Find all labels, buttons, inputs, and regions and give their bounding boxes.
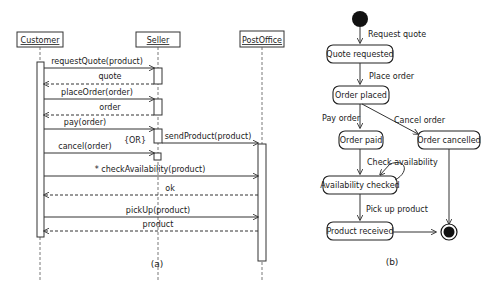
- svg-text:Order placed: Order placed: [335, 91, 387, 100]
- message-label: requestQuote(product): [51, 57, 143, 66]
- diagram-canvas: Customer Seller PostOffice requestQuote(…: [0, 0, 496, 285]
- state-order-placed: Order placed: [333, 86, 389, 104]
- message-label: pickUp(product): [126, 206, 190, 215]
- transition-label: Check availability: [367, 158, 438, 167]
- lifeline-label: Customer: [21, 36, 61, 45]
- activation-seller-2: [154, 99, 162, 115]
- caption-a: (a): [151, 259, 164, 269]
- svg-text:Quote requested: Quote requested: [326, 50, 393, 59]
- message-label: product: [143, 220, 174, 229]
- message-label: pay(order): [64, 118, 106, 127]
- sequence-diagram: Customer Seller PostOffice requestQuote(…: [17, 31, 284, 280]
- state-order-cancelled: Order cancelled: [417, 131, 480, 149]
- message-label: placeOrder(order): [61, 88, 133, 97]
- transition-label: Pay order: [322, 114, 361, 123]
- state-order-paid: Order paid: [339, 131, 383, 149]
- svg-text:Order cancelled: Order cancelled: [417, 136, 480, 145]
- lifeline-label: Seller: [147, 36, 170, 45]
- caption-b: (b): [386, 257, 399, 267]
- transition-label: Request quote: [368, 30, 426, 39]
- state-product-received: Product received: [326, 222, 393, 240]
- message-label: quote: [98, 72, 121, 81]
- state-diagram: Request quote Quote requested Place orde…: [320, 11, 480, 267]
- activation-seller-3: [154, 129, 162, 143]
- svg-text:Availability checked: Availability checked: [320, 181, 399, 190]
- transition-label: Cancel order: [394, 116, 446, 125]
- state-quote-requested: Quote requested: [326, 45, 393, 63]
- message-label: * checkAvailability(product): [95, 165, 206, 174]
- message-label: order: [99, 103, 121, 112]
- transition-label: Pick up product: [366, 205, 428, 214]
- activation-seller-1: [154, 68, 162, 84]
- svg-text:Product received: Product received: [326, 227, 393, 236]
- activation-seller-4: [154, 153, 161, 160]
- or-constraint: {OR}: [124, 136, 146, 145]
- message-label: cancel(order): [58, 142, 112, 151]
- lifeline-label: PostOffice: [242, 36, 282, 45]
- transition-label: Place order: [369, 72, 415, 81]
- final-state: [441, 224, 457, 240]
- message-label: sendProduct(product): [165, 132, 252, 141]
- svg-text:Order paid: Order paid: [340, 136, 383, 145]
- message-label: ok: [165, 184, 175, 193]
- initial-state: [352, 11, 368, 27]
- activation-postoffice: [258, 144, 266, 261]
- activation-customer: [37, 62, 44, 237]
- state-availability-checked: Availability checked: [320, 176, 399, 194]
